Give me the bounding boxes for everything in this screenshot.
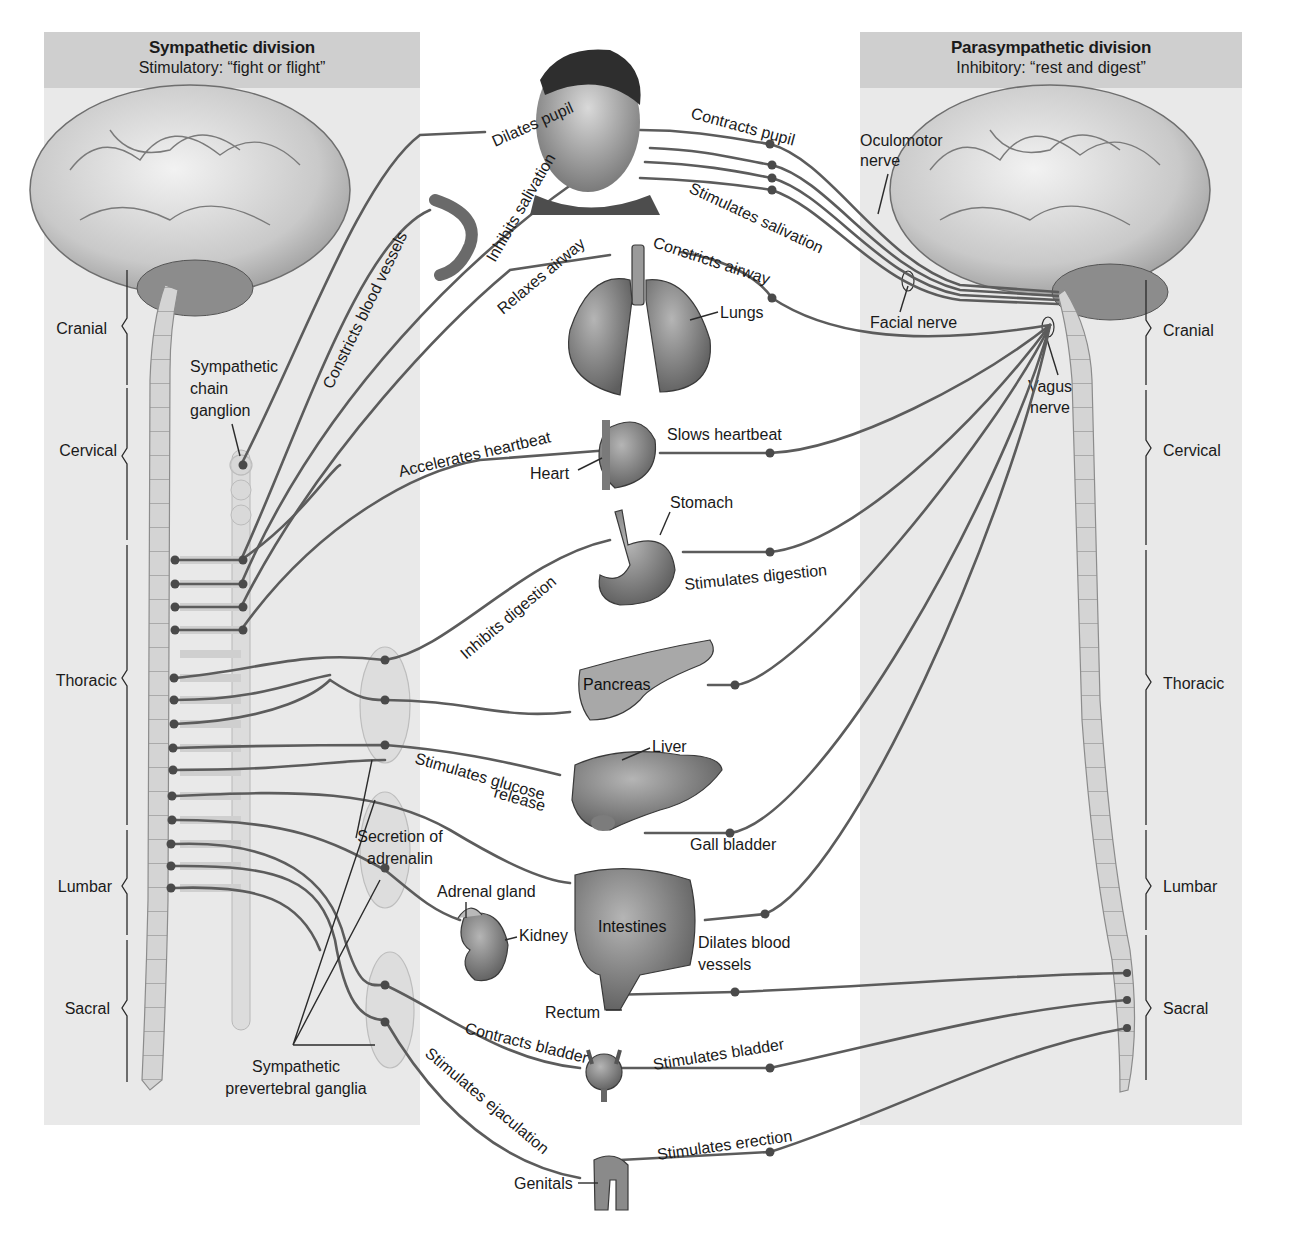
intestines-illustration: [575, 869, 695, 1010]
effect-stimulates-ejaculation: Stimulates ejaculation: [422, 1044, 552, 1157]
label-vagus-2: nerve: [1030, 399, 1070, 416]
stomach-illustration: [599, 510, 675, 605]
label-oculomotor-2: nerve: [860, 152, 900, 169]
label-facial-nerve: Facial nerve: [870, 314, 957, 331]
organ-label-gall-bladder: Gall bladder: [690, 836, 777, 853]
label-oculomotor-1: Oculomotor: [860, 132, 943, 149]
right-region-lumbar: Lumbar: [1163, 878, 1218, 895]
liver-illustration: [572, 752, 722, 831]
label-sympathetic-chain-ganglion-3: ganglion: [190, 402, 251, 419]
organ-label-lungs: Lungs: [720, 304, 764, 321]
effect-contracts-pupil: Contracts pupil: [689, 104, 796, 148]
right-region-cranial: Cranial: [1163, 322, 1214, 339]
organ-label-genitals: Genitals: [514, 1175, 573, 1192]
label-secretion-1: Secretion of: [357, 828, 443, 845]
effect-stimulates-erection: Stimulates erection: [656, 1127, 793, 1163]
organ-label-rectum: Rectum: [545, 1004, 600, 1021]
sympathetic-synapse-dots: [167, 461, 390, 1027]
effect-dilates-blood-vessels-2: vessels: [698, 956, 751, 973]
left-region-cervical: Cervical: [59, 442, 117, 459]
face-illustration: [530, 49, 660, 215]
left-brain: [30, 85, 350, 316]
label-prevertebral-1: Sympathetic: [252, 1058, 340, 1075]
effect-stimulates-salivation: Stimulates salivation: [687, 179, 826, 256]
bladder-illustration: [586, 1050, 622, 1102]
effect-dilates-blood-vessels-1: Dilates blood: [698, 934, 791, 951]
label-sympathetic-chain-ganglion-2: chain: [190, 380, 228, 397]
organ-label-intestines: Intestines: [598, 918, 666, 935]
left-region-braces: [122, 270, 127, 1082]
left-region-cranial: Cranial: [56, 320, 107, 337]
effect-inhibits-digestion: Inhibits digestion: [457, 573, 559, 663]
blood-vessel-illustration: [435, 200, 472, 275]
label-prevertebral-2: prevertebral ganglia: [225, 1080, 367, 1097]
organ-label-heart: Heart: [530, 465, 570, 482]
organ-label-kidney: Kidney: [519, 927, 568, 944]
autonomic-nervous-system-diagram: Cranial Cervical Thoracic Lumbar Sacral …: [0, 0, 1291, 1259]
label-sympathetic-chain-ganglion-1: Sympathetic: [190, 358, 278, 375]
right-region-cervical: Cervical: [1163, 442, 1221, 459]
heart-illustration: [599, 420, 656, 490]
organ-label-adrenal-gland: Adrenal gland: [437, 883, 536, 900]
label-secretion-2: adrenalin: [367, 850, 433, 867]
left-region-lumbar: Lumbar: [58, 878, 113, 895]
left-region-sacral: Sacral: [65, 1000, 110, 1017]
right-region-sacral: Sacral: [1163, 1000, 1208, 1017]
organ-label-stomach: Stomach: [670, 494, 733, 511]
inferior-mesenteric-ganglion: [366, 952, 414, 1068]
right-region-braces: [1146, 280, 1151, 1080]
organ-label-pancreas: Pancreas: [583, 676, 651, 693]
effect-contracts-bladder: Contracts bladder: [463, 1019, 590, 1066]
right-region-thoracic: Thoracic: [1163, 675, 1224, 692]
effect-stimulates-digestion: Stimulates digestion: [684, 561, 828, 593]
organ-label-liver: Liver: [652, 738, 687, 755]
lungs-illustration: [569, 245, 711, 395]
left-region-thoracic: Thoracic: [56, 672, 117, 689]
effect-constricts-blood-vessels: Constricts blood vessels: [319, 229, 410, 392]
genitals-illustration: [594, 1156, 628, 1210]
left-spinal-cord: [142, 285, 178, 1090]
effect-relaxes-airway: Relaxes airway: [494, 235, 588, 318]
effect-slows-heartbeat: Slows heartbeat: [667, 426, 782, 443]
kidney-illustration: [458, 908, 508, 980]
sympathetic-chain: [180, 450, 251, 1030]
right-brain: [890, 85, 1210, 320]
effect-constricts-airway: Constricts airway: [651, 234, 772, 288]
